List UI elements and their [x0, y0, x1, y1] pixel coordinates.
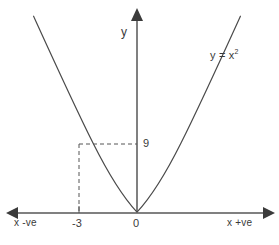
curve-equation-base: y = x [210, 49, 235, 61]
y-value-label-9: 9 [143, 138, 149, 149]
x-tick-label-neg3: -3 [72, 218, 82, 229]
x-axis-right-arrow-icon [263, 207, 275, 219]
y-axis-label: y [121, 26, 127, 38]
curve-equation-label: y = x2 [210, 48, 239, 61]
y-axis-up-arrow-icon [131, 8, 143, 21]
graph-canvas [0, 0, 279, 245]
x-positive-direction-label: x +ve [227, 218, 252, 228]
origin-label: 0 [133, 218, 139, 229]
x-negative-direction-label: x -ve [14, 218, 37, 228]
curve-equation-exponent: 2 [235, 48, 239, 55]
parabola-figure: y y = x2 9 0 -3 x -ve x +ve [0, 0, 279, 245]
